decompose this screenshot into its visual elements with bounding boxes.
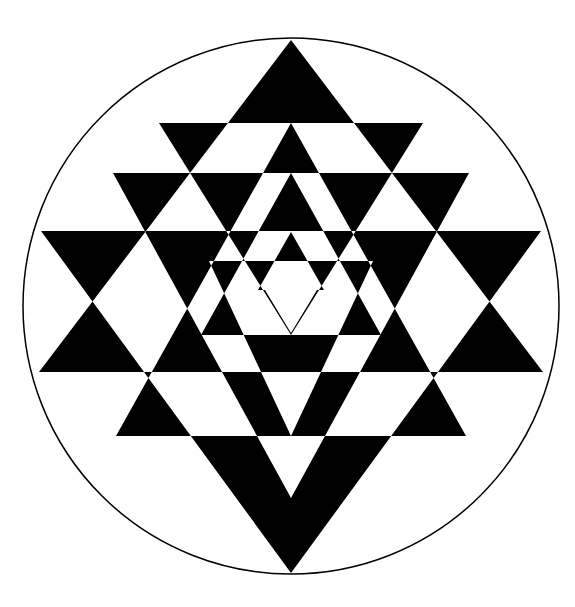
sri-yantra-figure bbox=[0, 0, 575, 607]
bindu-center-dot bbox=[290, 304, 295, 309]
sri-yantra-svg bbox=[0, 0, 575, 607]
